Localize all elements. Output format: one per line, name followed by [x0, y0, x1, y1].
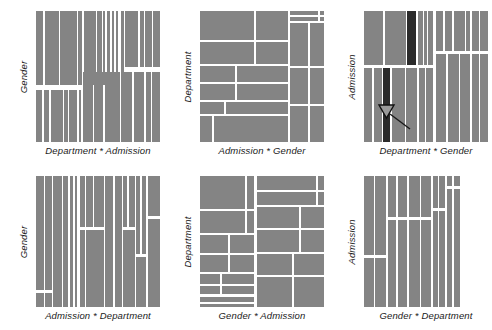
- mosaic-tile: [51, 90, 63, 142]
- mosaic-tile: [375, 258, 386, 307]
- mosaic-tile: [226, 102, 288, 114]
- mosaic-tile: [123, 230, 135, 307]
- mosaic-tile: [388, 220, 397, 307]
- mosaic-tile: [445, 11, 453, 51]
- mosaic-tile: [448, 54, 459, 142]
- y-axis-label-container: Department: [180, 176, 194, 307]
- mosaic-tile: [421, 220, 431, 307]
- y-axis-label-container: Gender: [16, 11, 30, 142]
- x-axis-label: Department * Admission: [36, 145, 160, 156]
- mosaic-tile: [200, 304, 254, 307]
- mosaic-tile: [454, 11, 465, 51]
- mosaic-tile: [145, 11, 152, 67]
- mosaic-tile: [45, 293, 52, 307]
- y-axis-label-container: Admission: [344, 11, 358, 142]
- mosaic-tile: [466, 11, 470, 51]
- mosaic-tile: [200, 102, 224, 114]
- mosaic-tile: [436, 54, 446, 142]
- mosaic-tile: [375, 176, 386, 255]
- x-axis-label: Gender * Department: [364, 310, 488, 321]
- mosaic-tile: [83, 72, 93, 142]
- mosaic-tile: [86, 230, 104, 307]
- mosaic-tile: [290, 106, 308, 142]
- mosaic-tile: [257, 207, 299, 228]
- mosaic-tile: [364, 176, 374, 255]
- mosaic-panel-3: Department * GenderAdmission: [328, 0, 492, 165]
- mosaic-tile: [36, 90, 42, 142]
- mosaic-tile: [310, 68, 325, 104]
- x-axis-label: Admission * Department: [36, 310, 160, 321]
- mosaic-tile: [290, 68, 308, 104]
- plot-area: [364, 176, 488, 307]
- mosaic-tile: [200, 286, 220, 294]
- mosaic-tile: [301, 230, 325, 252]
- mosaic-tile: [398, 176, 408, 217]
- mosaic-tile: [294, 277, 325, 307]
- mosaic-tile: [222, 286, 255, 294]
- mosaic-tile: [247, 176, 255, 209]
- mosaic-tile: [78, 11, 82, 85]
- mosaic-tile: [200, 255, 228, 272]
- mosaic-tile: [200, 84, 235, 100]
- mosaic-panel-5: Gender * AdmissionDepartment: [164, 165, 328, 330]
- mosaic-tile: [142, 176, 147, 254]
- mosaic-tile: [153, 11, 160, 67]
- mosaic-tile: [480, 11, 488, 51]
- mosaic-tile: [70, 176, 74, 307]
- mosaic-tile: [230, 255, 255, 272]
- mosaic-tile: [86, 176, 93, 227]
- mosaic-tile: [290, 11, 318, 15]
- mosaic-tile: [419, 68, 425, 142]
- mosaic-tile: [200, 42, 254, 64]
- mosaic-tile: [447, 189, 453, 307]
- mosaic-tile: [200, 66, 235, 82]
- y-axis-label: Admission: [346, 219, 357, 264]
- mosaic-tile: [409, 176, 420, 217]
- mosaic-tile: [148, 219, 161, 307]
- mosaic-tile: [310, 23, 325, 66]
- mosaic-tile: [200, 176, 245, 209]
- mosaic-tile: [290, 17, 318, 21]
- y-axis-label-container: Admission: [344, 176, 358, 307]
- mosaic-tile: [409, 220, 420, 307]
- y-axis-label-container: Gender: [16, 176, 30, 307]
- mosaic-panel-6: Gender * DepartmentAdmission: [328, 165, 492, 330]
- mosaic-tile: [200, 274, 220, 284]
- mosaic-tile: [45, 11, 59, 85]
- mosaic-tile: [200, 116, 212, 142]
- mosaic-tile: [407, 11, 416, 65]
- y-axis-label: Gender: [18, 225, 29, 258]
- mosaic-tile: [424, 11, 427, 65]
- mosaic-tile: [94, 176, 104, 227]
- mosaic-tile: [64, 90, 68, 142]
- mosaic-tile: [45, 176, 52, 290]
- mosaic-tile: [418, 11, 423, 65]
- y-axis-label: Department: [182, 216, 193, 267]
- mosaic-tile: [247, 211, 255, 233]
- plot-area: [200, 11, 324, 142]
- mosaic-plot-matrix-figure: Department * AdmissionGenderAdmission * …: [0, 0, 492, 330]
- mosaic-tile: [364, 68, 372, 142]
- mosaic-tile: [398, 220, 408, 307]
- mosaic-tile: [136, 257, 146, 307]
- mosaic-tile: [472, 11, 479, 51]
- y-axis-label: Department: [182, 51, 193, 102]
- mosaic-tile: [421, 176, 431, 217]
- mosaic-tile: [301, 207, 325, 228]
- mosaic-tile: [364, 258, 374, 307]
- mosaic-tile: [136, 176, 140, 254]
- mosaic-tile: [454, 189, 460, 307]
- mosaic-tile: [146, 72, 151, 142]
- plot-area: [200, 176, 324, 307]
- mosaic-panel-1: Department * AdmissionGender: [0, 0, 164, 165]
- mosaic-tile: [256, 42, 288, 64]
- mosaic-tile: [290, 23, 308, 66]
- mosaic-tile: [60, 11, 77, 85]
- mosaic-tile: [36, 11, 43, 85]
- mosaic-tile: [53, 176, 62, 307]
- mosaic-tile: [388, 176, 397, 217]
- mosaic-tile: [200, 211, 245, 233]
- mosaic-tile: [36, 293, 44, 307]
- mosaic-tile: [310, 106, 325, 142]
- mosaic-tile: [364, 11, 383, 65]
